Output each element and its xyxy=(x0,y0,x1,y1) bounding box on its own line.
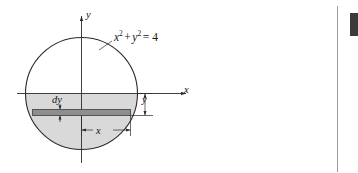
circle-integration-figure xyxy=(0,0,358,173)
y-dim-bottom-arrowhead xyxy=(144,111,147,116)
page-edge-mark xyxy=(350,13,358,36)
x-axis-label: x xyxy=(184,85,189,96)
x-dimension-label: x xyxy=(96,126,101,137)
y-axis-label: y xyxy=(86,10,91,21)
differential-strip xyxy=(33,110,131,116)
dy-annotation-label: dy xyxy=(52,95,62,106)
y-axis-arrowhead xyxy=(80,16,83,21)
equation-plus-sign: + xyxy=(123,31,133,43)
page-divider-rule xyxy=(337,6,338,172)
y-dimension-label: y xyxy=(142,95,147,106)
equation-equals-sign: = xyxy=(141,31,151,43)
circle-equation-label: x2+y2=4 xyxy=(114,30,159,43)
equation-rhs-value: 4 xyxy=(151,31,160,43)
x-dim-right-arrowhead xyxy=(126,129,131,132)
